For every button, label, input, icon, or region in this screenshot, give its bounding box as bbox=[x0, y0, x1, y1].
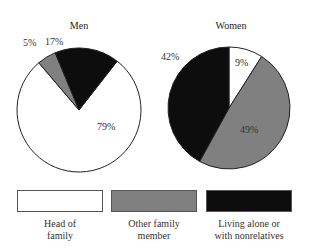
legend-label-line: Other family bbox=[104, 218, 204, 230]
legend-label-line: member bbox=[104, 230, 204, 242]
slice-label: 5% bbox=[23, 37, 36, 48]
legend-label-line: Head of bbox=[10, 218, 110, 230]
slice-label: 49% bbox=[240, 124, 258, 135]
women-pie-chart: 9%49%42% bbox=[161, 47, 290, 169]
legend-swatch-living-alone bbox=[206, 190, 292, 212]
legend-label-head-of-family: Head of family bbox=[10, 218, 110, 242]
slice-label: 79% bbox=[97, 121, 115, 132]
legend-label-line: family bbox=[10, 230, 110, 242]
legend-swatch-head-of-family bbox=[17, 190, 103, 212]
pie-charts: 79%5%17% 9%49%42% bbox=[0, 0, 309, 190]
slice-label: 17% bbox=[45, 36, 63, 47]
slice-label: 42% bbox=[161, 51, 179, 62]
legend-label-line: Living alone or bbox=[199, 218, 299, 230]
slice-label: 9% bbox=[235, 57, 248, 68]
men-pie-chart: 79%5%17% bbox=[17, 36, 141, 172]
legend-swatch-other-family-member bbox=[111, 190, 197, 212]
legend-label-line: with nonrelatives bbox=[199, 230, 299, 242]
legend-label-other-family-member: Other family member bbox=[104, 218, 204, 242]
legend-label-living-alone: Living alone or with nonrelatives bbox=[199, 218, 299, 242]
